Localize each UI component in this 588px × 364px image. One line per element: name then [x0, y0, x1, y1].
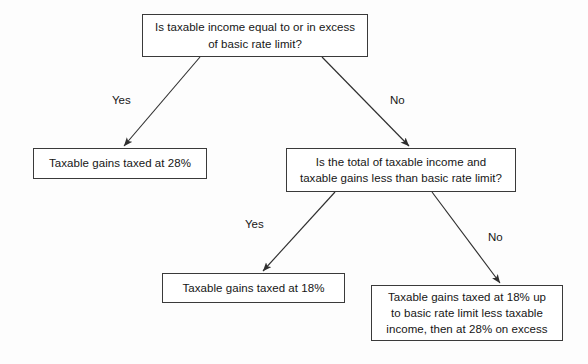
arrow-q1-yes [124, 57, 200, 146]
edge-label-q2-yes: Yes [245, 218, 264, 230]
decision-taxable-income-vs-basic-rate-limit[interactable]: Is taxable income equal to or in excess … [142, 14, 368, 57]
flowchart-canvas: Is taxable income equal to or in excess … [0, 0, 588, 364]
decision-q2-label: Is the total of taxable income and taxab… [300, 154, 502, 187]
decision-total-vs-basic-rate-limit[interactable]: Is the total of taxable income and taxab… [286, 148, 516, 192]
outcome-gains-taxed-18-then-28[interactable]: Taxable gains taxed at 18% up to basic r… [371, 285, 563, 341]
outcome-mixed-label: Taxable gains taxed at 18% up to basic r… [386, 289, 547, 338]
outcome-gains-taxed-28[interactable]: Taxable gains taxed at 28% [33, 148, 207, 179]
arrow-q2-yes [263, 192, 335, 271]
outcome-28-label: Taxable gains taxed at 28% [49, 155, 191, 171]
edge-label-q1-no: No [390, 94, 405, 106]
edge-label-q2-no: No [488, 231, 503, 243]
edge-label-q1-yes: Yes [112, 94, 131, 106]
outcome-18-label: Taxable gains taxed at 18% [183, 280, 325, 296]
decision-q1-label: Is taxable income equal to or in excess … [155, 19, 355, 52]
outcome-gains-taxed-18[interactable]: Taxable gains taxed at 18% [162, 273, 345, 303]
